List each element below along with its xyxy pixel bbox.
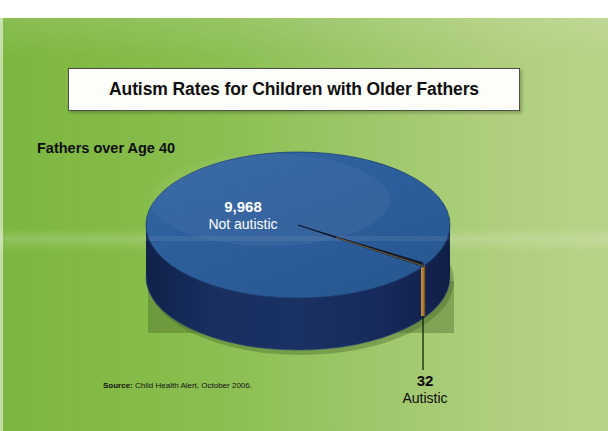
source-note: Source: Child Health Alert, October 2006…: [103, 381, 252, 390]
source-text: Child Health Alert, October 2006.: [133, 381, 252, 390]
major-slice-label: 9,968 Not autistic: [168, 198, 318, 232]
minor-slice-label: 32 Autistic: [375, 372, 475, 406]
major-slice-caption: Not autistic: [168, 216, 318, 233]
minor-slice-side-face: [421, 262, 425, 316]
major-slice-value: 9,968: [168, 198, 318, 216]
minor-slice-caption: Autistic: [375, 390, 475, 407]
minor-slice-value: 32: [375, 372, 475, 390]
slide-canvas: Autism Rates for Children with Older Fat…: [0, 0, 608, 431]
source-label: Source:: [103, 381, 133, 390]
